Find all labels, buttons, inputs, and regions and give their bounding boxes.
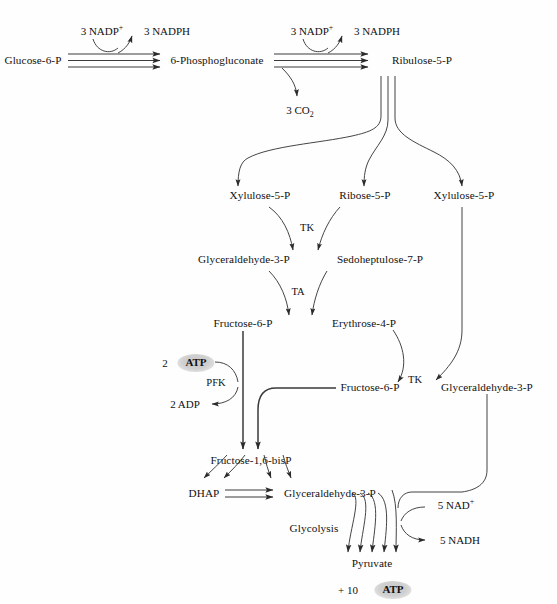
arrow-dhap-to-gap bbox=[225, 490, 273, 497]
cofactor-nadh-out: 5 NADH bbox=[440, 535, 480, 546]
cofactor-adp: 2 ADP bbox=[170, 399, 200, 410]
metabolite-glucose-6-p: Glucose-6-P bbox=[4, 55, 61, 66]
metabolite-fructose-1-6-bisp: Fructose-1,6-bisP bbox=[211, 455, 292, 466]
metabolite-xylulose-5-p-left: Xylulose-5-P bbox=[230, 190, 291, 201]
metabolite-pyruvate: Pyruvate bbox=[352, 558, 393, 569]
pathway-arrows-layer bbox=[0, 0, 557, 604]
metabolite-ribulose-5-p: Ribulose-5-P bbox=[392, 55, 452, 66]
cofactor-nad-in: 5 NAD+ bbox=[438, 500, 475, 511]
arrow-6pg-to-ru5p bbox=[274, 54, 368, 67]
metabolite-ribose-5-p: Ribose-5-P bbox=[339, 190, 390, 201]
cofactor-nadph-out-2: 3 NADPH bbox=[354, 26, 400, 37]
metabolite-erythrose-4-p: Erythrose-4-P bbox=[332, 318, 396, 329]
cofactor-atp-chip: ATP bbox=[177, 354, 214, 372]
metabolite-gap-upper-left: Glyceraldehyde-3-P bbox=[198, 254, 290, 265]
enzyme-transaldolase: TA bbox=[291, 287, 304, 298]
enzyme-phosphofructokinase: PFK bbox=[206, 378, 225, 389]
cofactor-atp-yield-chip: ATP bbox=[374, 581, 411, 599]
metabolite-gap-lower: Glyceraldehyde-3-P bbox=[284, 488, 376, 499]
cofactor-atp-yield-count: + 10 bbox=[338, 585, 358, 596]
metabolite-dhap: DHAP bbox=[189, 488, 220, 499]
metabolite-fructose-6-p-left: Fructose-6-P bbox=[214, 318, 273, 329]
cofactor-nadp-in-1: 3 NADP+ bbox=[81, 26, 124, 37]
metabolite-sedoheptulose-7-p: Sedoheptulose-7-P bbox=[337, 254, 423, 265]
process-label-glycolysis: Glycolysis bbox=[290, 523, 339, 534]
cofactor-nadph-out-1: 3 NADPH bbox=[144, 26, 190, 37]
metabolite-xylulose-5-p-right: Xylulose-5-P bbox=[434, 190, 495, 201]
metabolite-6-phosphogluconate: 6-Phosphogluconate bbox=[170, 55, 263, 66]
pathway-diagram: 3 NADP+ 3 NADPH 3 NADP+ 3 NADPH Glucose-… bbox=[0, 0, 557, 604]
enzyme-transketolase-lower: TK bbox=[408, 375, 422, 386]
arrow-g6p-to-6pg bbox=[68, 54, 160, 67]
enzyme-transketolase-upper: TK bbox=[300, 223, 314, 234]
cofactor-co2: 3 CO2 bbox=[286, 105, 313, 116]
metabolite-gap-right: Glyceraldehyde-3-P bbox=[441, 382, 533, 393]
cofactor-atp-count: 2 bbox=[162, 358, 168, 369]
metabolite-fructose-6-p-mid: Fructose-6-P bbox=[341, 382, 400, 393]
cofactor-nadp-in-2: 3 NADP+ bbox=[291, 26, 334, 37]
